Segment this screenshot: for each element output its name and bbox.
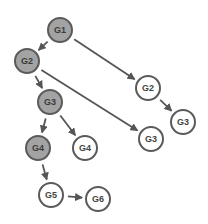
node-g3: G3 xyxy=(170,109,196,135)
node-label: G4 xyxy=(79,143,91,153)
edge-arrow-g2-to-g3 xyxy=(160,100,171,111)
edge-arrow-g4-to-g5 xyxy=(43,164,47,179)
node-g4: G4 xyxy=(72,135,98,161)
node-label: G1 xyxy=(54,25,66,35)
edge-arrow-g3-to-g4 xyxy=(42,118,46,132)
node-label: G3 xyxy=(145,134,157,144)
node-label: G3 xyxy=(44,97,56,107)
node-g2: G2 xyxy=(14,48,40,74)
node-g4: G4 xyxy=(25,135,51,161)
node-g2: G2 xyxy=(135,75,161,101)
edge-arrow-g1-to-g2 xyxy=(74,39,134,79)
edge-arrow-g1-to-g2 xyxy=(39,42,48,50)
node-g3: G3 xyxy=(138,126,164,152)
node-label: G2 xyxy=(142,83,154,93)
node-label: G2 xyxy=(21,56,33,66)
node-label: G5 xyxy=(45,190,57,200)
node-g1: G1 xyxy=(47,17,73,43)
edge-arrow-g3-to-g4 xyxy=(60,116,75,136)
node-g5: G5 xyxy=(38,182,64,208)
edge-arrow-g2-to-g3 xyxy=(35,76,42,88)
node-label: G3 xyxy=(177,117,189,127)
node-g6: G6 xyxy=(85,186,111,212)
edge-arrow-g5-to-g6 xyxy=(68,196,82,197)
node-label: G6 xyxy=(92,194,104,204)
node-g3: G3 xyxy=(37,89,63,115)
node-label: G4 xyxy=(32,143,44,153)
tree-diagram: G1G2G3G4G4G5G6G2G3G3 xyxy=(0,0,208,224)
